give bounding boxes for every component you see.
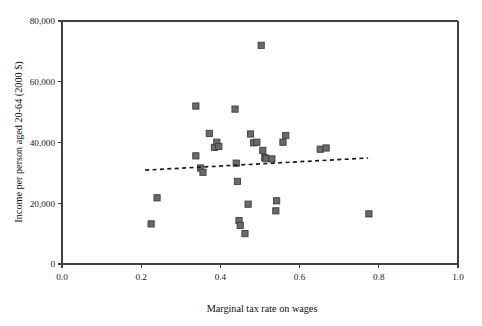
data-point-marker (283, 132, 289, 138)
data-point-marker (280, 139, 286, 145)
data-point-marker (247, 131, 253, 137)
data-point-marker (274, 198, 280, 204)
data-point-marker (242, 231, 248, 237)
x-tick-label: 0.0 (56, 272, 68, 282)
x-axis-title: Marginal tax rate on wages (207, 303, 318, 314)
y-tick-label: 80,000 (30, 16, 56, 26)
x-tick-group: 0.00.20.40.60.81.0 (56, 264, 464, 282)
chart-canvas: 020,00040,00060,00080,000 0.00.20.40.60.… (0, 0, 482, 326)
y-tick-label: 40,000 (30, 138, 56, 148)
data-point-marker (234, 178, 240, 184)
data-point-marker (254, 139, 260, 145)
y-tick-label: 20,000 (30, 199, 56, 209)
data-point-marker (366, 211, 372, 217)
x-tick-label: 1.0 (452, 272, 464, 282)
data-point-marker (200, 169, 206, 175)
data-point-marker (154, 195, 160, 201)
data-point-marker (206, 130, 212, 136)
data-point-marker (263, 155, 269, 161)
y-axis-title: Income per person aged 20-64 (2000 $) (13, 61, 25, 222)
data-point-marker (193, 103, 199, 109)
data-point-marker (216, 143, 222, 149)
x-tick-label: 0.2 (135, 272, 147, 282)
y-tick-label: 0 (50, 259, 55, 269)
x-tick-label: 0.6 (294, 272, 306, 282)
scatter-chart: 020,00040,00060,00080,000 0.00.20.40.60.… (0, 0, 482, 326)
y-tick-group: 020,00040,00060,00080,000 (30, 16, 62, 269)
data-point-marker (323, 145, 329, 151)
data-point-marker (232, 106, 238, 112)
data-point-marker (237, 222, 243, 228)
data-point-marker (245, 201, 251, 207)
data-point-marker (269, 156, 275, 162)
x-tick-label: 0.8 (373, 272, 385, 282)
data-point-marker (273, 208, 279, 214)
data-point-marker (317, 146, 323, 152)
y-tick-label: 60,000 (30, 77, 56, 87)
trend-line (145, 158, 368, 170)
data-point-marker (193, 153, 199, 159)
data-point-marker (260, 147, 266, 153)
data-point-group (148, 42, 372, 237)
data-point-marker (258, 42, 264, 48)
data-point-marker (148, 221, 154, 227)
x-tick-label: 0.4 (215, 272, 227, 282)
